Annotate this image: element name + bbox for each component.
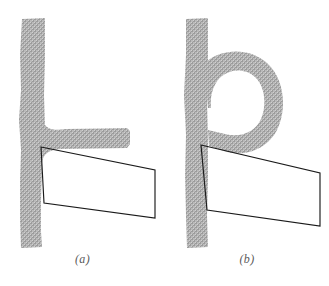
panel-b-drawing — [165, 0, 329, 286]
panel-a-drawing — [0, 0, 165, 286]
panel-b-caption: (b) — [165, 252, 329, 267]
figure-root: (a) — [0, 0, 329, 286]
figure-panel-a: (a) — [0, 0, 165, 286]
panel-a-caption: (a) — [0, 252, 165, 267]
quadrilateral-outline — [201, 145, 320, 226]
textured-L-form — [19, 18, 130, 248]
quadrilateral-outline — [41, 147, 155, 218]
figure-panel-b: (b) — [165, 0, 329, 286]
